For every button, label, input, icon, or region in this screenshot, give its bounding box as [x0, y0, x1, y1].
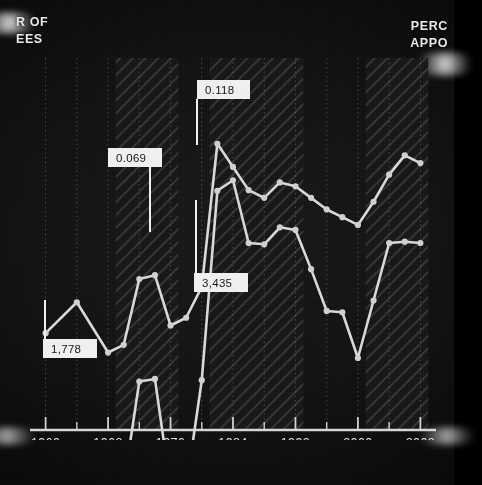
data-point[interactable] [402, 239, 408, 245]
data-point[interactable] [324, 206, 330, 212]
data-point[interactable] [230, 177, 236, 183]
data-point[interactable] [246, 240, 252, 246]
chart-canvas: 1960196819761984199220002008 [30, 58, 436, 440]
chart-right-axis-title: PERCAPPO [410, 18, 448, 52]
data-point[interactable] [199, 377, 205, 383]
data-point[interactable] [339, 309, 345, 315]
chart-left-axis-title-line1: R OF [16, 15, 48, 29]
data-point[interactable] [370, 199, 376, 205]
data-point[interactable] [167, 322, 173, 328]
x-axis-tick-labels-group: 1960196819761984199220002008 [31, 436, 435, 440]
data-point[interactable] [246, 187, 252, 193]
annotation-flag-label: 1,778 [51, 343, 81, 355]
data-point[interactable] [355, 355, 361, 361]
data-point[interactable] [277, 224, 283, 230]
data-point[interactable] [214, 141, 220, 147]
line-chart-plot-area: 1960196819761984199220002008 [30, 58, 436, 440]
annotation-flag-start-percent-appointees[interactable]: 0.069 [108, 148, 162, 167]
band-1969-1977 [116, 58, 178, 430]
data-point[interactable] [136, 276, 142, 282]
x-tick-label-1960: 1960 [31, 436, 60, 440]
x-tick-label-2008: 2008 [406, 436, 435, 440]
data-point[interactable] [339, 214, 345, 220]
data-point[interactable] [324, 308, 330, 314]
data-point[interactable] [417, 240, 423, 246]
data-point[interactable] [386, 240, 392, 246]
annotation-flag-employees-1982[interactable]: 3,435 [194, 273, 248, 292]
data-point[interactable] [402, 152, 408, 158]
data-point[interactable] [261, 195, 267, 201]
data-point[interactable] [308, 195, 314, 201]
annotation-flag-peak-percent-appointees[interactable]: 0.118 [197, 80, 250, 99]
annotation-flag-label: 0.069 [116, 152, 146, 164]
chart-left-axis-title: R OFEES [16, 14, 48, 48]
annotation-flag-label: 3,435 [202, 277, 232, 289]
data-point[interactable] [105, 349, 111, 355]
data-point[interactable] [308, 266, 314, 272]
data-point[interactable] [292, 183, 298, 189]
x-tick-label-1968: 1968 [93, 436, 122, 440]
data-point[interactable] [355, 222, 361, 228]
data-point[interactable] [386, 172, 392, 178]
data-point[interactable] [214, 188, 220, 194]
data-point[interactable] [183, 315, 189, 321]
chart-left-axis-title-line2: EES [16, 32, 43, 46]
data-point[interactable] [261, 241, 267, 247]
data-point[interactable] [417, 160, 423, 166]
data-point[interactable] [370, 297, 376, 303]
data-point[interactable] [74, 299, 80, 305]
data-point[interactable] [292, 227, 298, 233]
annotation-flag-label: 0.118 [205, 84, 234, 96]
axis-ticks-group [46, 417, 421, 430]
x-tick-label-1984: 1984 [218, 436, 247, 440]
data-point[interactable] [121, 342, 127, 348]
chart-right-axis-title-line2: APPO [410, 36, 448, 50]
annotation-flag-employees-1960[interactable]: 1,778 [43, 339, 97, 358]
shaded-bands-group [116, 58, 428, 430]
x-tick-label-2000: 2000 [343, 436, 372, 440]
data-point[interactable] [277, 179, 283, 185]
data-point[interactable] [152, 376, 158, 382]
x-tick-label-1976: 1976 [156, 436, 185, 440]
data-point[interactable] [230, 164, 236, 170]
chart-right-axis-title-line1: PERC [411, 19, 448, 33]
data-point[interactable] [136, 378, 142, 384]
data-point[interactable] [152, 272, 158, 278]
x-tick-label-1992: 1992 [281, 436, 310, 440]
